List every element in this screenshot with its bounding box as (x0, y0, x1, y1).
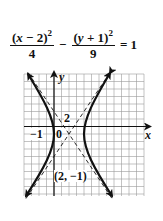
hyperbola-graph (0, 0, 163, 221)
tick-label-2: 2 (64, 112, 70, 124)
center-label: (2, −1) (54, 170, 87, 182)
x-axis-label: x (145, 129, 151, 141)
tick-label-neg1: −1 (30, 128, 43, 140)
y-axis-label: y (59, 71, 64, 83)
origin-label: 0 (56, 128, 62, 140)
